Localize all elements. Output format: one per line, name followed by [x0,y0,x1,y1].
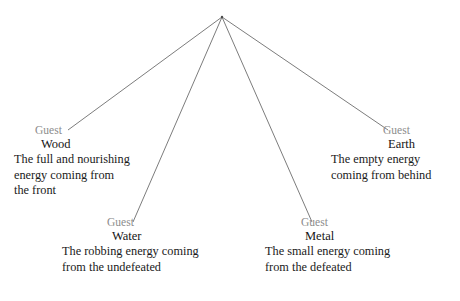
node-earth-name: Earth [388,137,431,152]
edge-root-to-water [133,17,222,222]
node-wood[interactable]: Guest Wood The full and nourishing energ… [14,124,130,199]
node-wood-guest-label: Guest [35,124,130,137]
node-wood-name: Wood [41,137,130,152]
radial-tree-diagram: Guest Wood The full and nourishing energ… [0,0,460,301]
node-metal-guest-label: Guest [301,216,390,229]
node-wood-description-line: energy coming from [14,168,130,184]
node-metal-description: The small energy coming from the defeate… [265,244,390,275]
edge-root-to-wood [68,17,222,130]
node-water-name: Water [112,229,199,244]
node-water[interactable]: Guest Water The robbing energy coming fr… [62,216,199,275]
node-metal[interactable]: Guest Metal The small energy coming from… [265,216,390,275]
node-wood-description-line: the front [14,183,130,199]
node-earth-description: The empty energy coming from behind [331,152,431,183]
node-water-description-line: from the undefeated [62,260,199,276]
node-earth-description-line: The empty energy [331,152,431,168]
node-earth[interactable]: Guest Earth The empty energy coming from… [331,124,431,183]
node-earth-description-line: coming from behind [331,168,431,184]
node-metal-description-line: from the defeated [265,260,390,276]
node-wood-description-line: The full and nourishing [14,152,130,168]
node-earth-guest-label: Guest [383,124,431,137]
node-water-description-line: The robbing energy coming [62,244,199,260]
root-node-point [221,16,223,18]
node-wood-description: The full and nourishing energy coming fr… [14,152,130,199]
node-metal-name: Metal [305,229,390,244]
node-water-description: The robbing energy coming from the undef… [62,244,199,275]
node-metal-description-line: The small energy coming [265,244,390,260]
node-water-guest-label: Guest [107,216,199,229]
